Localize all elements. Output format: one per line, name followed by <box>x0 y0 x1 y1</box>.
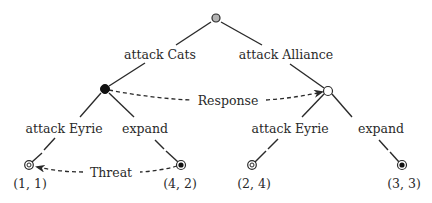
payoff-4-2: (4, 2) <box>163 176 197 191</box>
label-left-attack-eyrie: attack Eyrie <box>25 121 102 136</box>
payoff-1-1: (1, 1) <box>13 176 47 191</box>
cats-decision-node <box>101 85 110 94</box>
label-attack-alliance: attack Alliance <box>239 47 333 62</box>
leaf-node-1-1 <box>25 161 34 170</box>
label-right-expand: expand <box>358 121 404 136</box>
leaf-node-2-4 <box>248 161 257 170</box>
label-threat: Threat <box>90 165 132 180</box>
game-tree-diagram: attack Cats attack Alliance attack Eyrie… <box>0 0 432 203</box>
leaf-node-4-2 <box>177 161 186 170</box>
root-node <box>212 14 220 22</box>
leaf-node-3-3 <box>398 161 407 170</box>
label-right-attack-eyrie: attack Eyrie <box>251 121 328 136</box>
label-attack-cats: attack Cats <box>124 47 196 62</box>
alliance-decision-node <box>324 87 333 96</box>
payoff-2-4: (2, 4) <box>237 176 271 191</box>
label-left-expand: expand <box>122 121 168 136</box>
label-response: Response <box>198 93 259 108</box>
payoff-3-3: (3, 3) <box>387 176 421 191</box>
